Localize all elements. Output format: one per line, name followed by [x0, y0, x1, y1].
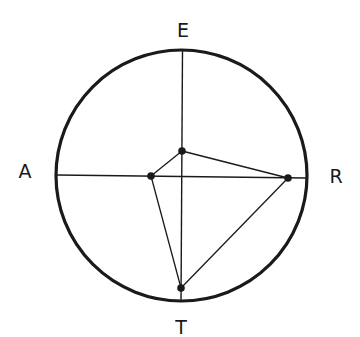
radar-diagram: E R T A	[0, 0, 360, 337]
node-a	[147, 172, 155, 180]
node-r	[284, 174, 292, 182]
node-t	[177, 284, 185, 292]
node-e	[178, 147, 186, 155]
label-r: R	[329, 165, 342, 187]
edge-t-a	[151, 176, 181, 288]
edge-r-t	[181, 178, 288, 288]
label-t: T	[174, 316, 187, 337]
label-a: A	[19, 160, 32, 182]
edge-e-r	[182, 151, 288, 178]
label-e: E	[177, 19, 189, 41]
edge-a-e	[151, 151, 182, 176]
